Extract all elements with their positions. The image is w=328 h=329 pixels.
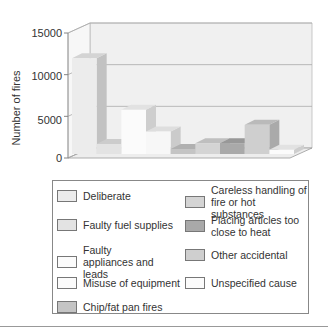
y-tick-0: 0 xyxy=(18,152,62,164)
legend-label: Faulty appliances and leads xyxy=(83,244,157,280)
legend-item-faulty-fuel-supplies: Faulty fuel supplies xyxy=(57,219,177,231)
legend-swatch xyxy=(57,301,77,313)
legend-label: Other accidental xyxy=(211,249,287,261)
legend-swatch xyxy=(185,277,205,289)
legend-label: Deliberate xyxy=(83,190,131,202)
chart-legend: Deliberate Faulty fuel supplies Faulty a… xyxy=(52,180,309,314)
legend-swatch xyxy=(57,219,77,231)
legend-item-placing-articles: Placing articles too close to heat xyxy=(185,214,309,238)
legend-label: Misuse of equipment xyxy=(83,277,180,289)
legend-swatch xyxy=(57,190,77,202)
legend-item-deliberate: Deliberate xyxy=(57,190,177,202)
bar-chart: Number of fires 15000 10000 5000 0 xyxy=(0,0,328,180)
legend-swatch xyxy=(57,256,77,268)
legend-label: Chip/fat pan fires xyxy=(83,301,162,313)
legend-label: Faulty fuel supplies xyxy=(83,219,173,231)
y-tick-15000: 15000 xyxy=(18,27,62,39)
legend-swatch xyxy=(185,220,205,232)
legend-item-faulty-appliances: Faulty appliances and leads xyxy=(57,244,157,280)
legend-swatch xyxy=(185,249,205,261)
legend-item-chip-fat-pan-fires: Chip/fat pan fires xyxy=(57,301,177,313)
legend-label: Unspecified cause xyxy=(211,277,297,289)
legend-swatch xyxy=(57,277,77,289)
legend-label: Placing articles too close to heat xyxy=(211,214,309,238)
legend-item-other-accidental: Other accidental xyxy=(185,249,309,261)
legend-swatch xyxy=(185,196,205,208)
legend-item-unspecified-cause: Unspecified cause xyxy=(185,277,309,289)
y-tick-5000: 5000 xyxy=(18,114,62,126)
bar xyxy=(72,53,107,154)
y-tick-10000: 10000 xyxy=(18,70,62,82)
legend-item-misuse-of-equipment: Misuse of equipment xyxy=(57,277,182,289)
bottom-rule xyxy=(0,326,328,327)
